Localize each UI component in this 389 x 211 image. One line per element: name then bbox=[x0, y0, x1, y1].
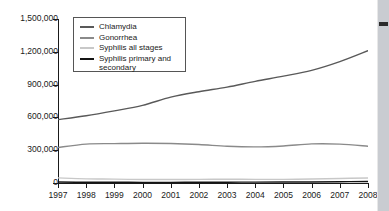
scrollbar-thumb[interactable] bbox=[379, 22, 388, 26]
legend-label: Syphilis all stages bbox=[99, 43, 163, 53]
y-axis-tick-label: 0 bbox=[6, 178, 58, 187]
x-axis-tick-label: 2005 bbox=[268, 190, 298, 200]
x-axis-tick-label: 2004 bbox=[240, 190, 270, 200]
x-axis-line bbox=[58, 183, 369, 184]
chart-legend: ChlamydiaGonorrheaSyphilis all stagesSyp… bbox=[73, 17, 186, 72]
x-axis-tick-label: 2007 bbox=[325, 190, 355, 200]
x-axis-tick bbox=[340, 184, 341, 188]
chart-screenshot: 1,500,0001,200,000900,000600,000300,0000… bbox=[0, 0, 389, 211]
x-axis-tick-label: 2002 bbox=[184, 190, 214, 200]
x-axis-tick bbox=[368, 184, 369, 188]
x-axis-tick-label: 2000 bbox=[128, 190, 158, 200]
series-line bbox=[58, 182, 368, 183]
y-axis-tick-label: 900,000 bbox=[6, 80, 58, 89]
y-axis-tick-label: 1,200,000 bbox=[6, 47, 58, 56]
y-axis-tick-label: 300,000 bbox=[6, 145, 58, 154]
x-axis-tick-label: 2006 bbox=[297, 190, 327, 200]
legend-label: Chlamydia bbox=[99, 22, 137, 32]
x-axis-tick bbox=[255, 184, 256, 188]
x-axis-tick bbox=[114, 184, 115, 188]
x-axis-tick bbox=[171, 184, 172, 188]
scrollbar[interactable] bbox=[377, 0, 389, 211]
x-axis-tick bbox=[86, 184, 87, 188]
x-axis-tick-label: 1998 bbox=[71, 190, 101, 200]
y-axis-labels: 1,500,0001,200,000900,000600,000300,0000 bbox=[0, 0, 58, 211]
legend-swatch-icon bbox=[80, 47, 94, 49]
x-axis-tick-label: 2003 bbox=[212, 190, 242, 200]
series-line bbox=[58, 143, 368, 147]
legend-label: Gonorrhea bbox=[99, 33, 137, 43]
legend-item: Syphilis primary and secondary bbox=[78, 54, 181, 73]
legend-swatch-icon bbox=[80, 26, 94, 28]
series-line bbox=[58, 178, 368, 180]
x-axis-tick bbox=[58, 184, 59, 188]
legend-swatch-icon bbox=[80, 58, 94, 60]
x-axis-tick bbox=[143, 184, 144, 188]
x-axis-tick bbox=[227, 184, 228, 188]
legend-swatch-icon bbox=[80, 37, 94, 39]
x-axis-tick bbox=[312, 184, 313, 188]
x-axis-tick-label: 1999 bbox=[99, 190, 129, 200]
legend-label: Syphilis primary and secondary bbox=[99, 54, 181, 73]
legend-item: Syphilis all stages bbox=[78, 43, 181, 53]
y-axis-tick-label: 1,500,000 bbox=[6, 14, 58, 23]
x-axis-tick bbox=[283, 184, 284, 188]
y-axis-tick-label: 600,000 bbox=[6, 112, 58, 121]
line-chart: 1,500,0001,200,000900,000600,000300,0000… bbox=[0, 0, 378, 211]
legend-item: Chlamydia bbox=[78, 22, 181, 32]
x-axis-tick-label: 1997 bbox=[43, 190, 73, 200]
x-axis-tick bbox=[199, 184, 200, 188]
x-axis-tick-label: 2001 bbox=[156, 190, 186, 200]
legend-item: Gonorrhea bbox=[78, 33, 181, 43]
